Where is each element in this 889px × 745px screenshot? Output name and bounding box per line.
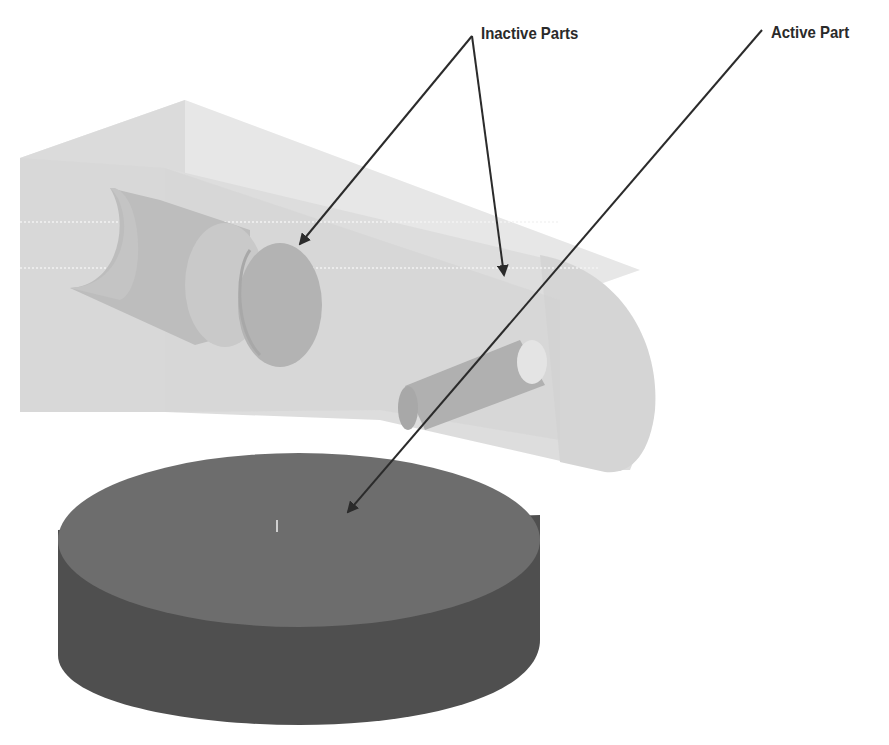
inactive-parts-label: Inactive Parts: [481, 24, 578, 44]
active-disc: [58, 453, 540, 725]
active-part-label: Active Part: [771, 23, 849, 43]
diagram-graphic: [0, 0, 889, 745]
cad-diagram: Inactive Parts Active Part: [0, 0, 889, 745]
